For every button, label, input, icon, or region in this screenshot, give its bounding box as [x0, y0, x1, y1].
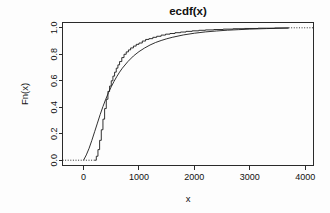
x-axis-tick-labels: 01000200030004000 [81, 172, 315, 182]
y-tick-label: 0.8 [50, 48, 60, 61]
x-tick-label: 1000 [129, 172, 149, 182]
chart-title: ecdf(x) [169, 5, 207, 17]
plot-box [63, 23, 314, 166]
plot-canvas: 01000200030004000 0.00.20.40.60.81.0 ecd… [0, 0, 330, 213]
x-tick-label: 0 [81, 172, 86, 182]
x-tick-label: 4000 [295, 172, 315, 182]
y-axis-title: Fn(x) [19, 83, 30, 105]
y-tick-label: 1.0 [50, 22, 60, 35]
data-series-group [63, 28, 314, 160]
ecdf-plot-window: 01000200030004000 0.00.20.40.60.81.0 ecd… [0, 0, 330, 213]
x-tick-label: 3000 [240, 172, 260, 182]
x-tick-label: 2000 [184, 172, 204, 182]
plot-frame [63, 23, 314, 166]
y-tick-label: 0.4 [50, 101, 60, 114]
x-axis-ticks [84, 166, 306, 170]
y-tick-label: 0.2 [50, 127, 60, 140]
y-axis-tick-labels: 0.00.20.40.60.81.0 [50, 22, 60, 167]
y-tick-label: 0.0 [50, 154, 60, 167]
series-path [95, 28, 289, 160]
y-tick-label: 0.6 [50, 75, 60, 88]
x-axis-title: x [186, 193, 191, 204]
series-path [84, 28, 289, 160]
